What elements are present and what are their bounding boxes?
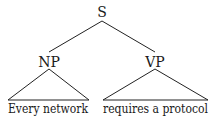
np-triangle [8, 69, 89, 100]
syntax-tree-diagram: S NP VP Every network requires a protoco… [0, 0, 218, 120]
np-leaf-text: Every network [8, 101, 88, 116]
vp-triangle [103, 69, 208, 100]
node-s-label: S [97, 4, 107, 20]
node-np-label: NP [38, 54, 60, 70]
edge-s-np [49, 21, 102, 52]
node-vp-label: VP [144, 54, 165, 70]
edge-s-vp [102, 21, 155, 52]
vp-leaf-text: requires a protocol [103, 101, 208, 116]
